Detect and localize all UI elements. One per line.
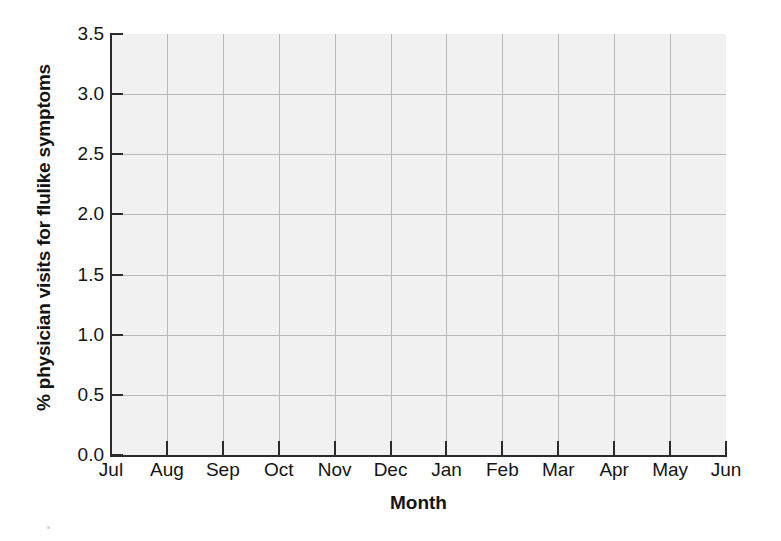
- gridline-horizontal: [111, 335, 726, 336]
- x-tick-mark: [278, 441, 280, 457]
- y-tick-mark: [112, 33, 123, 35]
- gridline-horizontal: [111, 154, 726, 155]
- x-tick-mark: [501, 441, 503, 457]
- x-tick-mark: [334, 441, 336, 457]
- gridline-vertical: [279, 34, 280, 455]
- x-tick-label: Nov: [305, 460, 365, 479]
- x-tick-label: Aug: [137, 460, 197, 479]
- gridline-horizontal: [111, 214, 726, 215]
- y-tick-mark: [112, 394, 123, 396]
- x-tick-label: Dec: [361, 460, 421, 479]
- gridline-horizontal: [111, 94, 726, 95]
- y-tick-label: 1.0: [58, 325, 104, 344]
- gridline-vertical: [670, 34, 671, 455]
- y-tick-label: 0.5: [58, 385, 104, 404]
- y-tick-label: 3.5: [58, 24, 104, 43]
- x-axis-line: [110, 455, 727, 457]
- y-tick-mark: [112, 93, 123, 95]
- x-tick-mark: [110, 441, 112, 457]
- gridline-vertical: [335, 34, 336, 455]
- x-tick-mark: [557, 441, 559, 457]
- y-tick-mark: [112, 274, 123, 276]
- x-tick-mark: [222, 441, 224, 457]
- gridline-vertical: [446, 34, 447, 455]
- y-tick-label: 2.5: [58, 144, 104, 163]
- plot-area: [111, 34, 726, 455]
- x-tick-label: Jul: [81, 460, 141, 479]
- x-tick-label: Feb: [472, 460, 532, 479]
- x-tick-mark: [613, 441, 615, 457]
- x-tick-label: Sep: [193, 460, 253, 479]
- scan-speck-artifact: [47, 526, 50, 529]
- x-tick-label: Apr: [584, 460, 644, 479]
- gridline-vertical: [558, 34, 559, 455]
- y-tick-mark: [112, 213, 123, 215]
- y-tick-mark: [112, 454, 123, 456]
- gridline-vertical: [167, 34, 168, 455]
- y-tick-label: 3.0: [58, 84, 104, 103]
- x-tick-mark: [669, 441, 671, 457]
- y-tick-label: 2.0: [58, 204, 104, 223]
- chart-figure: % physician visits for flulike symptoms …: [0, 0, 781, 541]
- gridline-horizontal: [111, 275, 726, 276]
- x-tick-label: Jun: [696, 460, 756, 479]
- x-tick-mark: [445, 441, 447, 457]
- gridline-horizontal: [111, 395, 726, 396]
- y-tick-mark: [112, 334, 123, 336]
- x-tick-mark: [390, 441, 392, 457]
- x-axis-title: Month: [111, 492, 726, 514]
- x-tick-label: Oct: [249, 460, 309, 479]
- x-tick-label: Mar: [528, 460, 588, 479]
- gridline-vertical: [502, 34, 503, 455]
- gridline-vertical: [391, 34, 392, 455]
- x-tick-label: May: [640, 460, 700, 479]
- x-tick-label: Jan: [416, 460, 476, 479]
- gridline-vertical: [614, 34, 615, 455]
- y-tick-mark: [112, 153, 123, 155]
- x-tick-mark: [166, 441, 168, 457]
- y-tick-label: 1.5: [58, 265, 104, 284]
- x-tick-mark: [725, 441, 727, 457]
- gridline-vertical: [223, 34, 224, 455]
